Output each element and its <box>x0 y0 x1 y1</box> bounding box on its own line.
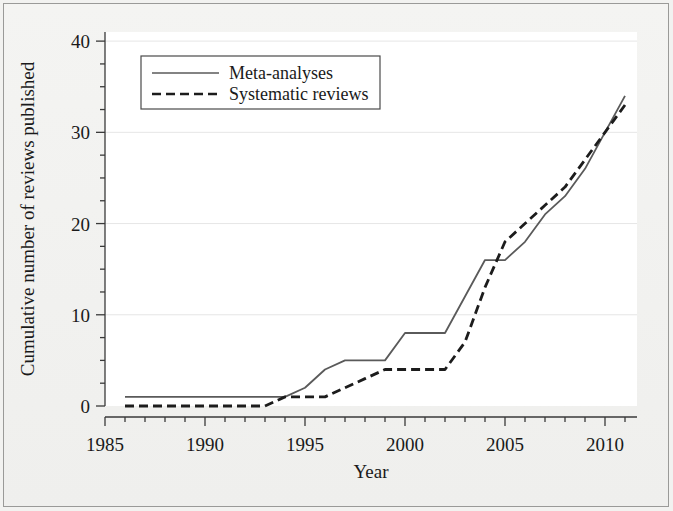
x-tick-labels: 198519901995200020052010 <box>86 434 624 455</box>
x-tick-label: 2005 <box>486 434 524 455</box>
x-tick-label: 2000 <box>386 434 424 455</box>
x-axis <box>105 417 637 426</box>
y-tick-label: 0 <box>81 396 91 417</box>
y-axis <box>96 32 105 406</box>
legend-label-systematic-reviews: Systematic reviews <box>229 84 368 104</box>
x-tick-label: 1990 <box>186 434 224 455</box>
x-tick-label: 1985 <box>86 434 124 455</box>
y-tick-label: 10 <box>71 305 90 326</box>
line-chart: 010203040 198519901995200020052010 Year … <box>0 0 673 511</box>
chart-legend: Meta-analyses Systematic reviews <box>141 56 380 109</box>
x-axis-title: Year <box>353 461 389 482</box>
y-tick-labels: 010203040 <box>71 31 90 417</box>
y-tick-label: 40 <box>71 31 90 52</box>
figure-container: 010203040 198519901995200020052010 Year … <box>0 0 673 511</box>
y-tick-label: 30 <box>71 122 90 143</box>
x-tick-label: 1995 <box>286 434 324 455</box>
legend-label-meta-analyses: Meta-analyses <box>229 63 333 83</box>
y-tick-label: 20 <box>71 214 90 235</box>
y-axis-title: Cumulative number of reviews published <box>17 61 38 376</box>
x-tick-label: 2010 <box>586 434 624 455</box>
